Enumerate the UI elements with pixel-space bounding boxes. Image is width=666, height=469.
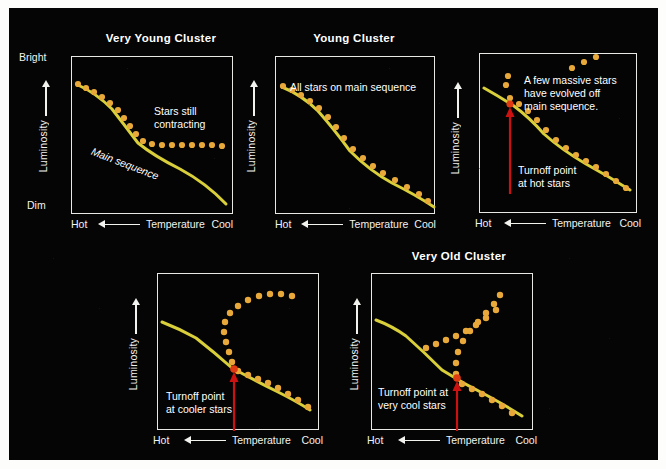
plot-area-very-young-cluster: Stars still contracting Main sequence <box>71 56 233 214</box>
annotation-stars-still-contracting: Stars still contracting <box>154 105 205 131</box>
x-axis-label-cool: Cool <box>619 217 641 229</box>
x-axis-label-temperature: Temperature <box>146 218 205 230</box>
turnoff-point-marker <box>506 100 513 107</box>
plot-area-very-old-cluster: Turnoff point at very cool stars <box>371 273 533 430</box>
giant-branch-points-group <box>453 292 503 377</box>
background-speck <box>259 428 260 429</box>
x-axis-label-cool: Cool <box>414 218 436 230</box>
y-axis-arrow-icon <box>352 298 362 334</box>
x-axis-label-hot: Hot <box>475 217 491 229</box>
star-points-group <box>280 83 431 204</box>
background-speck <box>309 104 310 105</box>
plot-area-older-cluster: A few massive stars have evolved off mai… <box>479 53 637 213</box>
background-speck <box>549 408 550 409</box>
x-axis-older-cluster: Hot Temperature Cool <box>475 217 641 229</box>
turnoff-point-marker <box>453 374 461 382</box>
x-axis-label-temperature-text: Temperature <box>446 434 505 446</box>
background-speck <box>169 103 170 104</box>
x-axis-arrow-icon <box>504 218 548 228</box>
background-speck <box>479 168 480 169</box>
x-axis-very-young-cluster: Hot Temperature Cool <box>71 218 233 230</box>
background-speck <box>289 308 290 309</box>
x-axis-label-hot: Hot <box>275 218 291 230</box>
x-axis-label-hot: Hot <box>153 434 169 446</box>
turnoff-arrow-icon <box>506 107 515 194</box>
annotation-all-stars-on-main-sequence: All stars on main sequence <box>290 81 416 94</box>
background-speck <box>349 208 350 209</box>
y-axis-label-luminosity: Luminosity <box>127 338 139 390</box>
background-speck <box>509 448 510 449</box>
x-axis-arrow-icon <box>301 219 345 229</box>
background-speck <box>609 338 610 339</box>
background-speck <box>389 68 390 69</box>
turnoff-label-very-old-cluster: Turnoff point at very cool stars <box>378 386 448 412</box>
x-axis-very-old-cluster: Hot Temperature Cool <box>367 434 537 446</box>
panel-title-young-cluster: Young Cluster <box>274 32 434 44</box>
panel-title-very-old-cluster: Very Old Cluster <box>364 250 554 262</box>
x-axis-label-hot: Hot <box>71 218 87 230</box>
background-speck <box>419 338 420 339</box>
x-axis-arrow-icon <box>398 435 442 445</box>
main-sequence-curve <box>282 87 434 207</box>
hr-diagram-figure: Very Young Cluster Bright Dim Luminosity <box>9 8 658 460</box>
y-axis-arrow-icon <box>131 298 141 334</box>
background-speck <box>99 308 100 309</box>
x-axis-young-cluster: Hot Temperature Cool <box>275 218 435 230</box>
x-axis-arrow-icon <box>184 435 228 445</box>
y-axis-bottom-label-dim: Dim <box>27 199 46 211</box>
background-speck <box>127 68 128 69</box>
y-axis-label-luminosity: Luminosity <box>37 120 49 172</box>
turnoff-label-old-cluster: Turnoff point at cooler stars <box>166 390 232 416</box>
panel-title-very-young-cluster: Very Young Cluster <box>71 32 251 44</box>
x-axis-label-cool: Cool <box>301 434 323 446</box>
y-axis-arrow-icon <box>453 82 463 118</box>
y-axis-label-luminosity: Luminosity <box>449 122 461 174</box>
x-axis-label-cool: Cool <box>211 218 233 230</box>
x-axis-old-cluster: Hot Temperature Cool <box>153 434 323 446</box>
plot-area-old-cluster: Turnoff point at cooler stars <box>157 273 319 430</box>
turnoff-point-marker <box>230 365 238 373</box>
y-axis-arrow-icon <box>41 80 51 116</box>
annotation-massive-stars-evolved-off: A few massive stars have evolved off mai… <box>524 74 617 113</box>
background-speck <box>214 158 215 159</box>
turnoff-arrow-icon <box>453 381 462 431</box>
x-axis-label-temperature: Temperature <box>552 217 611 229</box>
turnoff-label-older-cluster: Turnoff point at hot stars <box>518 164 576 190</box>
x-axis-label-hot: Hot <box>367 434 383 446</box>
background-speck <box>439 103 440 104</box>
x-axis-arrow-icon <box>98 219 142 229</box>
background-speck <box>619 118 620 119</box>
x-axis-label-temperature: Temperature <box>232 434 291 446</box>
y-axis-top-label-bright: Bright <box>19 51 46 63</box>
y-axis-label-luminosity: Luminosity <box>348 338 360 390</box>
y-axis-arrow-icon <box>249 80 259 116</box>
plot-svg-very-young-cluster <box>72 57 234 215</box>
giant-branch-points-group <box>221 291 295 365</box>
x-axis-label-cool: Cool <box>515 434 537 446</box>
x-axis-label-temperature: Temperature <box>349 218 408 230</box>
plot-area-young-cluster: All stars on main sequence <box>275 56 435 214</box>
background-speck <box>569 258 570 259</box>
background-speck <box>53 258 54 259</box>
y-axis-label-luminosity: Luminosity <box>245 120 257 172</box>
